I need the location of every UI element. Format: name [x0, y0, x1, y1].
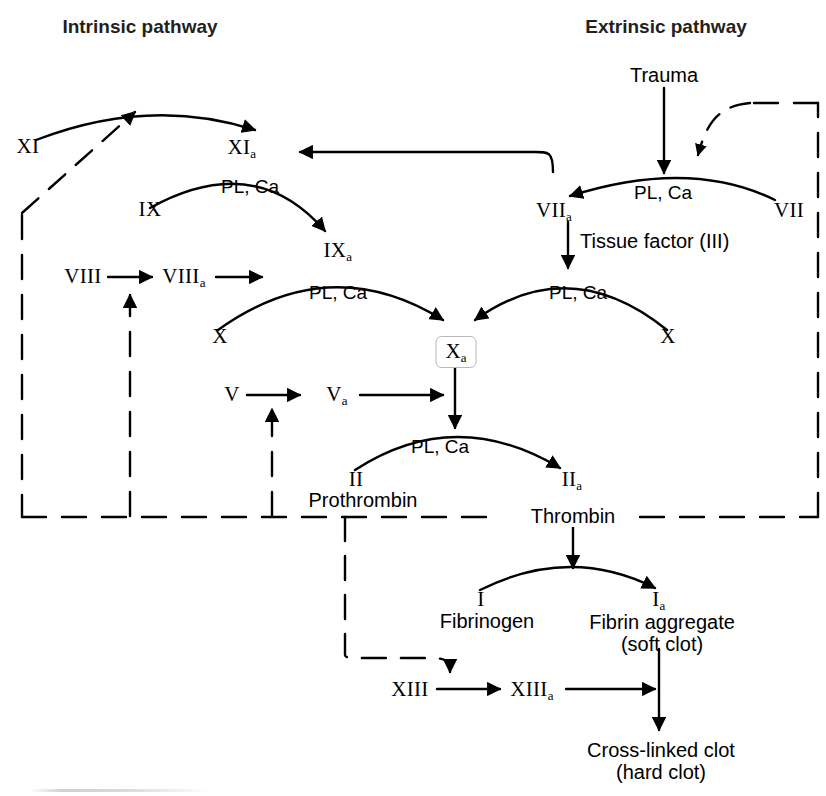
node-factor-viii-label: VIII	[64, 264, 101, 288]
page-edge-artifact	[30, 789, 210, 792]
node-factor-ii: II	[349, 468, 364, 490]
node-factor-xia-sub: a	[250, 146, 256, 161]
node-factor-xa-box: Xa	[436, 336, 477, 368]
node-factor-v-label: V	[224, 382, 239, 406]
node-factor-ix: IX	[139, 198, 162, 220]
node-factor-x-intrinsic-label: X	[212, 324, 227, 348]
label-fibrinogen: Fibrinogen	[440, 611, 535, 632]
node-factor-viia-label: VII	[536, 198, 566, 222]
cofactor-tenase-intrinsic: PL, Ca	[309, 283, 367, 303]
node-factor-vii: VII	[774, 199, 804, 221]
node-factor-ixa: IXa	[324, 239, 353, 261]
node-factor-viiia-sub: a	[200, 275, 206, 290]
label-fibrin-aggregate-line1: Fibrin aggregate	[589, 611, 735, 633]
label-crosslinked-clot: Cross-linked clot (hard clot)	[587, 739, 735, 784]
node-factor-iia: IIa	[562, 468, 583, 490]
node-factor-va-label: V	[326, 382, 341, 406]
node-factor-xia: XIa	[228, 136, 257, 158]
dashed-thrombin-to-xiii	[345, 517, 450, 672]
node-factor-xiiia-label: XIII	[510, 677, 547, 701]
node-factor-ixa-sub: a	[346, 249, 352, 264]
node-factor-xiiia: XIIIa	[510, 678, 553, 700]
node-factor-xiii: XIII	[391, 678, 428, 700]
node-factor-xi-label: XI	[17, 134, 40, 158]
label-crosslinked-clot-line1: Cross-linked clot	[587, 739, 735, 761]
coagulation-cascade-figure: Intrinsic pathway Extrinsic pathway XI X…	[0, 0, 826, 796]
label-prothrombin: Prothrombin	[309, 490, 418, 511]
arc-xi-to-xia	[36, 115, 255, 140]
cofactor-xia-complex: PL, Ca	[221, 177, 279, 197]
node-factor-viiia: VIIIa	[162, 265, 205, 287]
node-factor-xia-label: XI	[228, 135, 251, 159]
title-extrinsic-pathway: Extrinsic pathway	[585, 17, 747, 37]
label-crosslinked-clot-line2: (hard clot)	[587, 761, 735, 783]
node-factor-viii: VIII	[64, 265, 101, 287]
node-factor-x-intrinsic: X	[212, 325, 227, 347]
title-intrinsic-pathway: Intrinsic pathway	[62, 17, 217, 37]
node-factor-ii-label: II	[349, 467, 364, 491]
node-factor-xi: XI	[17, 135, 40, 157]
node-factor-v: V	[224, 383, 239, 405]
cofactor-prothrombinase: PL, Ca	[411, 437, 469, 457]
node-factor-i-label: I	[477, 587, 484, 611]
node-factor-va: Va	[326, 383, 348, 405]
node-factor-i: I	[477, 588, 484, 610]
cofactor-tenase-extrinsic: PL, Ca	[549, 283, 607, 303]
node-factor-vii-label: VII	[774, 198, 804, 222]
node-factor-x-extrinsic-label: X	[660, 324, 675, 348]
node-trauma: Trauma	[630, 65, 698, 86]
line-viia-to-xia	[300, 152, 553, 172]
node-factor-viia: VIIa	[536, 199, 572, 221]
node-factor-x-extrinsic: X	[660, 325, 675, 347]
label-thrombin: Thrombin	[526, 506, 620, 527]
node-factor-viia-sub: a	[566, 209, 572, 224]
node-factor-xa-sub: a	[461, 350, 467, 365]
label-fibrin-aggregate-line2: (soft clot)	[589, 633, 735, 655]
node-factor-iia-sub: a	[576, 478, 582, 493]
arc-fibrinogen-to-fibrin	[480, 567, 655, 590]
node-factor-ia: Ia	[652, 588, 665, 610]
label-tissue-factor: Tissue factor (III)	[580, 231, 729, 252]
cofactor-viia-complex: PL, Ca	[634, 183, 692, 203]
node-factor-ixa-label: IX	[324, 238, 347, 262]
node-factor-xiiia-sub: a	[548, 688, 554, 703]
node-factor-va-sub: a	[342, 393, 348, 408]
dashed-thrombin-to-vii	[698, 103, 750, 155]
node-factor-xiii-label: XIII	[391, 677, 428, 701]
node-factor-iia-label: II	[562, 467, 577, 491]
node-factor-viiia-label: VIII	[162, 264, 199, 288]
node-factor-xa-label: X	[446, 339, 461, 363]
node-factor-ix-label: IX	[139, 197, 162, 221]
label-fibrin-aggregate: Fibrin aggregate (soft clot)	[589, 611, 735, 656]
